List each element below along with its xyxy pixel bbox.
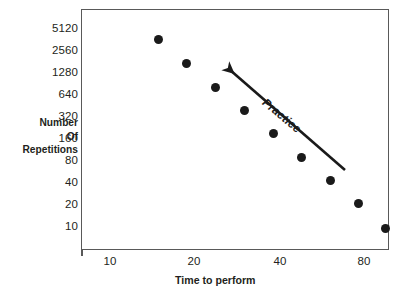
chart-figure: 51202560128064032016080402010 10204080 P… (0, 0, 394, 294)
x-axis-title: Time to perform (175, 274, 355, 286)
y-axis-title-line-1: Number (2, 116, 78, 130)
y-axis-title-line-2: Of (2, 130, 78, 144)
y-axis-title-line-3: Repetitions (2, 143, 78, 157)
y-axis-title: Number Of Repetitions (2, 116, 78, 157)
